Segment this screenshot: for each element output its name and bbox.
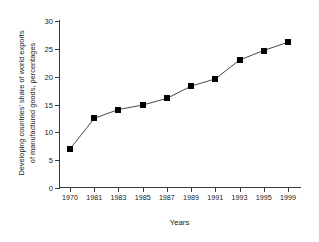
data-point-marker bbox=[188, 83, 194, 89]
chart-figure: Developing countries' share of world exp… bbox=[0, 0, 319, 242]
x-axis-tick-label: 1989 bbox=[183, 193, 199, 202]
y-axis-tick-label: 10 bbox=[45, 128, 53, 137]
data-series-line bbox=[59, 21, 300, 188]
x-axis-tick-label: 1970 bbox=[62, 193, 78, 202]
y-axis-tick-label: 25 bbox=[45, 44, 53, 53]
y-axis-tick-label: 20 bbox=[45, 72, 53, 81]
x-axis-tick-label: 1985 bbox=[135, 193, 151, 202]
x-axis-tick bbox=[94, 188, 95, 192]
data-point-marker bbox=[237, 57, 243, 63]
x-axis-title: Years bbox=[59, 218, 300, 227]
y-axis-title-line-2: of manufactured goods, percentages bbox=[27, 30, 38, 175]
data-point-marker bbox=[91, 115, 97, 121]
x-axis-tick bbox=[191, 188, 192, 192]
y-axis-tick-label: 0 bbox=[49, 184, 53, 193]
y-axis-tick-label: 30 bbox=[45, 17, 53, 26]
x-axis-tick-label: 1981 bbox=[86, 193, 102, 202]
x-axis-tick-label: 1983 bbox=[110, 193, 126, 202]
x-axis-tick-label: 1991 bbox=[207, 193, 223, 202]
x-axis-tick-label: 1999 bbox=[280, 193, 296, 202]
y-axis-title: Developing countries' share of world exp… bbox=[12, 18, 42, 188]
x-axis-tick bbox=[288, 188, 289, 192]
y-axis-tick bbox=[55, 188, 59, 189]
y-axis-tick-label: 5 bbox=[49, 156, 53, 165]
data-point-marker bbox=[115, 107, 121, 113]
x-axis-tick bbox=[167, 188, 168, 192]
data-point-marker bbox=[261, 48, 267, 54]
x-axis-tick bbox=[118, 188, 119, 192]
x-axis-tick bbox=[240, 188, 241, 192]
plot-area: 051015202530 197019811983198519871989199… bbox=[59, 21, 300, 188]
data-point-marker bbox=[67, 146, 73, 152]
x-axis-tick-label: 1995 bbox=[256, 193, 272, 202]
y-axis-title-text: Developing countries' share of world exp… bbox=[17, 30, 38, 175]
data-point-marker bbox=[285, 39, 291, 45]
data-point-marker bbox=[140, 102, 146, 108]
data-point-marker bbox=[164, 95, 170, 101]
x-axis-tick bbox=[264, 188, 265, 192]
x-axis-tick bbox=[215, 188, 216, 192]
x-axis-tick bbox=[70, 188, 71, 192]
x-axis-tick-label: 1987 bbox=[159, 193, 175, 202]
x-axis-tick bbox=[143, 188, 144, 192]
y-axis-tick-label: 15 bbox=[45, 100, 53, 109]
x-axis-tick-label: 1993 bbox=[232, 193, 248, 202]
y-axis-title-line-1: Developing countries' share of world exp… bbox=[17, 30, 28, 175]
data-point-marker bbox=[212, 76, 218, 82]
